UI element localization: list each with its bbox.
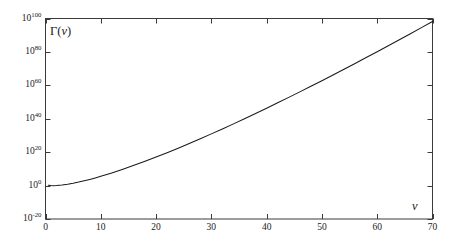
y-tick-label: 1060 (25, 81, 41, 91)
y-tick-exponent: 60 (35, 77, 42, 84)
y-tick-mantissa: 10 (25, 80, 35, 90)
x-tick-label: 30 (207, 223, 217, 233)
x-tick-label: 0 (43, 223, 48, 233)
y-tick-exponent: -20 (32, 211, 41, 218)
y-tick-exponent: 100 (31, 11, 41, 18)
y-tick-mantissa: 10 (25, 46, 35, 56)
gamma-curve (48, 21, 432, 185)
y-tick-mantissa: 10 (29, 180, 39, 190)
x-tick-label: 40 (262, 223, 272, 233)
gamma-function-plot-figure: 10-20100102010401060108010100 0102030405… (0, 0, 450, 249)
x-tick-label: 60 (372, 223, 382, 233)
y-tick-mantissa: 10 (25, 146, 35, 156)
y-tick-mantissa: 10 (22, 13, 32, 23)
x-tick-label: 70 (428, 223, 438, 233)
y-tick-exponent: 80 (35, 44, 42, 51)
y-axis-title-paren-close: ) (67, 24, 71, 38)
x-tick-label: 10 (96, 223, 106, 233)
y-tick-mantissa: 10 (23, 213, 33, 223)
y-tick-label: 100 (29, 181, 42, 191)
tick-marks-group (46, 19, 434, 220)
y-tick-label: 1040 (25, 114, 41, 124)
y-axis-title: Γ(v) (50, 25, 71, 38)
x-tick-label: 50 (317, 223, 327, 233)
y-tick-label: 1080 (25, 47, 41, 57)
y-tick-exponent: 0 (38, 178, 41, 185)
y-tick-label: 10-20 (23, 214, 42, 224)
x-tick-label: 20 (151, 223, 161, 233)
y-tick-exponent: 20 (35, 144, 42, 151)
y-tick-label: 1020 (25, 147, 41, 157)
plot-frame (46, 19, 433, 220)
y-tick-exponent: 40 (35, 111, 42, 118)
x-axis-title: v (412, 200, 418, 213)
y-tick-mantissa: 10 (25, 113, 35, 123)
y-tick-label: 10100 (22, 14, 42, 24)
